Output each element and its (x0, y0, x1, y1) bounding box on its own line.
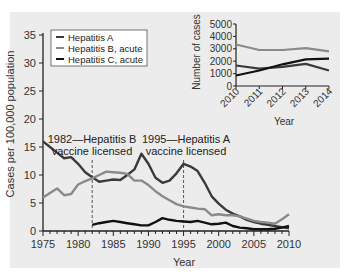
legend-label-hep-c: Hepatitis C, acute (68, 54, 143, 65)
main-x-tick-label: 2000 (206, 238, 230, 250)
annotation-1995-line2: vaccine licensed (146, 145, 227, 157)
main-x-tick-label: 1980 (66, 238, 90, 250)
main-y-tick-label: 25 (24, 85, 36, 97)
inset-x-tick-label: 2013 (288, 85, 312, 109)
inset-y-tick-label: 2000 (210, 56, 233, 67)
main-x-axis-title: Year (173, 256, 196, 268)
inset-x-axis-title: Year (274, 116, 295, 127)
annotation-1995-line1: 1995—Hepatitis A (142, 133, 231, 145)
main-y-tick-label: 35 (24, 29, 36, 41)
main-y-tick-label: 0 (30, 225, 36, 237)
hepatitis-chart: 0510152025303519751980198519901995200020… (0, 0, 352, 278)
main-x-tick-label: 1985 (101, 238, 125, 250)
main-y-tick-label: 30 (24, 57, 36, 69)
main-x-tick-label: 1975 (31, 238, 55, 250)
inset-x-tick-label: 2011 (242, 85, 265, 108)
inset-y-tick-label: 1000 (210, 68, 233, 79)
main-x-tick-label: 2010 (277, 238, 301, 250)
inset-y-tick-label: 5000 (210, 19, 233, 30)
legend-label-hep-b: Hepatitis B, acute (68, 43, 142, 54)
annotation-1982-line1: 1982—Hepatitis B (48, 133, 137, 145)
main-x-tick-label: 2005 (242, 238, 266, 250)
inset-axes: 0100020003000400050002010201120122013201… (210, 19, 335, 110)
inset-plot-lines (236, 45, 329, 76)
main-x-tick-label: 1990 (136, 238, 160, 250)
main-x-tick-label: 1995 (171, 238, 195, 250)
inset-x-tick-label: 2014 (311, 85, 335, 109)
main-y-axis-title: Cases per 100,000 population (4, 51, 16, 198)
inset-x-tick-label: 2012 (264, 85, 288, 109)
legend: Hepatitis A Hepatitis B, acute Hepatitis… (51, 30, 147, 66)
main-y-tick-label: 15 (24, 141, 36, 153)
inset-y-tick-label: 3000 (210, 43, 233, 54)
main-y-tick-label: 10 (24, 169, 36, 181)
annotation-1982-line2: vaccine licensed (52, 145, 133, 157)
inset-y-axis-title: Number of cases (191, 14, 202, 90)
legend-label-hep-a: Hepatitis A (68, 32, 114, 43)
series-line-hep-b (43, 172, 289, 224)
inset-y-tick-label: 4000 (210, 31, 233, 42)
inset-x-tick-label: 2010 (218, 85, 242, 109)
inset-series-line-hep-b (236, 45, 329, 52)
main-y-tick-label: 5 (30, 197, 36, 209)
main-y-tick-label: 20 (24, 113, 36, 125)
